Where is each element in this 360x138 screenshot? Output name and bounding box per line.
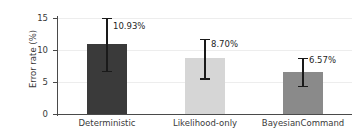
y-tick-label: 15 — [8, 14, 48, 23]
y-tick-mark — [53, 50, 57, 51]
error-bar-cap-upper — [200, 39, 210, 40]
error-bar-cap-upper — [298, 58, 308, 59]
value-label: 8.70% — [211, 40, 238, 49]
y-tick-label: 5 — [8, 78, 48, 87]
x-axis-spine — [57, 114, 352, 115]
value-label: 6.57% — [309, 56, 336, 65]
error-bar-line — [106, 18, 107, 71]
x-tick-label: Likelihood-only — [156, 119, 254, 128]
error-bar-line — [204, 39, 205, 79]
error-bar-cap-lower — [102, 71, 112, 72]
error-bar-cap-lower — [298, 86, 308, 87]
error-bar-line — [302, 58, 303, 86]
x-tick-label: Deterministic — [58, 119, 156, 128]
plot-area: 10.93%8.70%6.57% — [58, 14, 352, 114]
value-label: 10.93% — [113, 22, 145, 31]
bar-chart-figure: Error rate (%) 051015 10.93%8.70%6.57% D… — [0, 0, 360, 138]
y-tick-mark — [53, 114, 57, 115]
y-tick-label: 0 — [8, 110, 48, 119]
y-tick-mark — [53, 18, 57, 19]
y-tick-mark — [53, 82, 57, 83]
error-bar-cap-lower — [200, 78, 210, 79]
x-tick-label: BayesianCommand — [254, 119, 352, 128]
error-bar-cap-upper — [102, 18, 112, 19]
y-tick-label: 10 — [8, 46, 48, 55]
